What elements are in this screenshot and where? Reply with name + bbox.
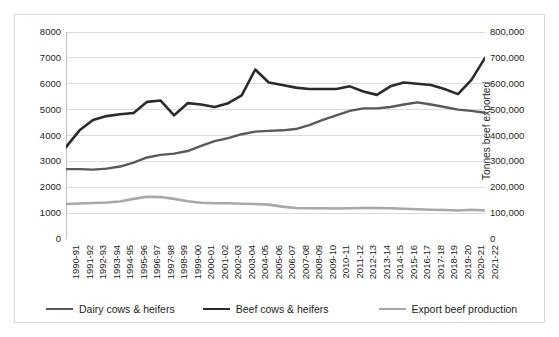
x-axis-tick-label: 2011-12 (354, 245, 365, 278)
legend-item[interactable]: Dairy cows & heifers (46, 303, 175, 315)
x-axis-tick-label: 1992-93 (97, 245, 108, 279)
x-axis-tick-label: 2010-11 (340, 245, 351, 278)
plot-svg (66, 32, 485, 239)
x-axis-tick-label: 2016-17 (421, 245, 432, 279)
x-axis-tick-label: 2001-02 (219, 245, 230, 279)
y-axis-left-tick-label: 1000 (40, 208, 61, 218)
legend-item[interactable]: Export beef production (379, 303, 518, 315)
x-axis-tick-label: 2019-20 (462, 245, 473, 279)
x-axis-tick-label: 2013-14 (381, 245, 392, 279)
y-axis-left-tick-label: 4000 (40, 131, 61, 141)
y-axis-right-tick-label: 200,000 (490, 183, 524, 193)
y-axis-left-tick-label: 5000 (40, 105, 61, 115)
y-axis-right-tick-label: 500,000 (490, 105, 524, 115)
legend-label: Export beef production (412, 303, 518, 315)
x-axis-tick-label: 1994-95 (124, 245, 135, 279)
x-axis-tick-label: 1993-94 (111, 245, 122, 279)
legend-line-swatch (203, 308, 230, 310)
x-axis-tick-label: 1998-99 (178, 245, 189, 279)
y-axis-right-tick-label: 100,000 (490, 208, 524, 218)
y-axis-left-tick-label: 8000 (40, 27, 61, 37)
chart-figure: Head ('000s) Tonnes beef exported 010002… (0, 0, 559, 337)
x-axis-tick-label: 1996-97 (151, 245, 162, 279)
legend-label: Beef cows & heifers (236, 303, 329, 315)
x-axis-tick-label: 1990-91 (70, 245, 81, 279)
x-axis-tick-label: 1995-96 (138, 245, 149, 279)
y-axis-right-tick-label: 400,000 (490, 131, 524, 141)
chart-legend: Dairy cows & heifersBeef cows & heifersE… (46, 303, 516, 315)
x-axis-tick-label: 2014-15 (394, 245, 405, 279)
legend-label: Dairy cows & heifers (79, 303, 175, 315)
x-axis-tick-label: 2012-13 (367, 245, 378, 279)
y-axis-left-tick-label: 7000 (40, 53, 61, 63)
x-axis-tick-label: 1991-92 (84, 245, 95, 279)
x-axis-tick-label: 2007-08 (300, 245, 311, 279)
x-axis-tick-label: 2009-10 (327, 245, 338, 279)
x-axis-tick-label: 2005-06 (273, 245, 284, 279)
x-axis-tick-label: 2008-09 (313, 245, 324, 279)
y-axis-right-tick-label: 600,000 (490, 79, 524, 89)
x-axis-tick-label: 2020-21 (475, 245, 486, 279)
x-axis-tick-label: 2006-07 (286, 245, 297, 279)
y-axis-left-tick-label: 3000 (40, 157, 61, 167)
y-axis-left-tick-label: 2000 (40, 183, 61, 193)
x-axis-tick-label: 2015-16 (408, 245, 419, 279)
x-axis-tick-label: 2004-05 (259, 245, 270, 279)
series-line (66, 197, 485, 211)
x-axis-tick-label: 2000-01 (205, 245, 216, 279)
legend-line-swatch (379, 308, 406, 310)
x-axis-tick-label: 2018-19 (448, 245, 459, 279)
x-axis-tick-label: 2002-03 (232, 245, 243, 279)
x-axis-tick-label: 2021-22 (489, 245, 500, 279)
y-axis-left-tick-label: 6000 (40, 79, 61, 89)
legend-line-swatch (46, 308, 73, 310)
legend-item[interactable]: Beef cows & heifers (203, 303, 329, 315)
y-axis-left-tick-label: 0 (56, 234, 61, 244)
y-axis-right-tick-label: 0 (490, 234, 495, 244)
y-axis-right-tick-label: 800,000 (490, 27, 524, 37)
y-axis-right-tick-label: 300,000 (490, 157, 524, 167)
plot-area: 0100020003000400050006000700080000100,00… (66, 32, 485, 239)
x-axis-tick-label: 1997-98 (165, 245, 176, 279)
y-axis-right-tick-label: 700,000 (490, 53, 524, 63)
x-axis-tick-label: 2003-04 (246, 245, 257, 279)
x-axis-tick-label: 1999-00 (192, 245, 203, 279)
x-axis-tick-label: 2017-18 (435, 245, 446, 279)
